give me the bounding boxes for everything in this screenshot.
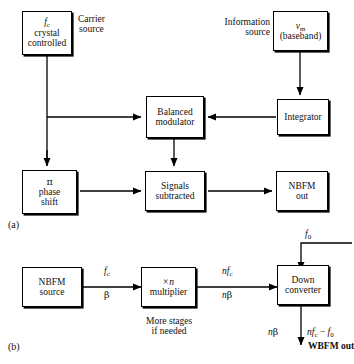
carrier-source-label-line-1: Carrier: [78, 14, 105, 24]
signals-line-1: Signals: [161, 181, 189, 191]
information-source-label: Information source: [196, 17, 270, 38]
multiplier-line-2: multiplier: [150, 287, 187, 297]
box-nbfm-out[interactable]: NBFM out: [276, 171, 328, 211]
multiplier-line-1: × n: [163, 277, 174, 287]
signal-label-nfc: nfc: [222, 266, 233, 277]
balanced-line-2: modulator: [155, 117, 194, 127]
panel-b-tag: (b): [8, 341, 20, 352]
carrier-box-line-3: controlled: [28, 38, 67, 48]
more-stages-note-line-1: More stages: [146, 316, 192, 326]
signals-line-2: subtracted: [155, 191, 194, 201]
more-stages-note: More stages if needed: [146, 316, 192, 337]
more-stages-note-line-2: if needed: [146, 326, 192, 336]
box-signals-subtracted[interactable]: Signals subtracted: [145, 171, 205, 211]
box-down-converter[interactable]: Down converter: [277, 265, 329, 305]
phase-line-2: phase: [39, 187, 61, 197]
panel-a-tag: (a): [8, 219, 19, 230]
signal-label-f0: f0: [305, 229, 311, 240]
information-source-label-line-2: source: [196, 27, 270, 37]
nbfm-out-line-1: NBFM: [289, 181, 316, 191]
box-phase-shift[interactable]: π phase shift: [22, 170, 77, 214]
phase-line-1: π: [46, 177, 52, 187]
carrier-source-label: Carrier source: [78, 14, 105, 35]
signal-label-fc: fc: [104, 266, 110, 277]
signal-label-nbeta: nβ: [222, 290, 232, 300]
box-multiplier[interactable]: × n multiplier: [141, 267, 196, 307]
balanced-line-1: Balanced: [157, 107, 192, 117]
nbfm-out-line-2: out: [296, 191, 308, 201]
signal-label-beta: β: [104, 290, 110, 300]
output-label-frequency: nfc − f0: [307, 327, 334, 338]
figure-canvas: fc crystal controlled Carrier source vm …: [0, 0, 354, 364]
box-balanced-modulator[interactable]: Balanced modulator: [146, 96, 204, 138]
down-converter-line-2: converter: [285, 285, 321, 295]
integrator-line-1: Integrator: [284, 112, 321, 122]
nbfm-source-line-1: NBFM: [39, 277, 66, 287]
down-converter-line-1: Down: [291, 275, 314, 285]
box-information-source[interactable]: vm (baseband): [273, 11, 328, 51]
box-integrator[interactable]: Integrator: [277, 99, 329, 135]
phase-line-3: shift: [41, 197, 58, 207]
nbfm-source-line-2: source: [40, 287, 65, 297]
box-nbfm-source[interactable]: NBFM source: [22, 267, 82, 307]
output-label-nbeta: nβ: [268, 327, 278, 337]
carrier-box-line-1: fc: [44, 17, 50, 28]
info-box-line-1: vm: [296, 21, 306, 32]
carrier-box-line-2: crystal: [34, 28, 59, 38]
carrier-source-label-line-2: source: [78, 24, 105, 34]
wbfm-out-label: WBFM out: [308, 341, 354, 351]
information-source-label-line-1: Information: [196, 17, 270, 27]
box-carrier-source[interactable]: fc crystal controlled: [22, 11, 72, 55]
